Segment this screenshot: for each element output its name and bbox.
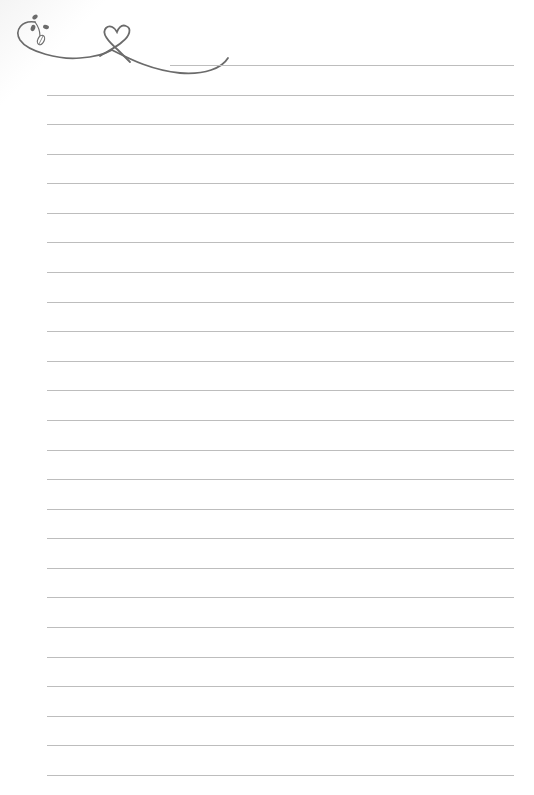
ruled-line [47,479,514,480]
ruled-line [47,124,514,125]
ruled-line [47,627,514,628]
notepaper [0,0,534,795]
ruled-line [47,597,514,598]
ruled-line [170,65,514,66]
ruled-line [47,657,514,658]
ruled-line [47,213,514,214]
ruled-line [47,538,514,539]
ruled-line [47,450,514,451]
ruled-line [47,331,514,332]
ruled-line [47,509,514,510]
ruled-line [47,745,514,746]
ruled-line [47,183,514,184]
ruled-line [47,361,514,362]
ruled-line [47,95,514,96]
ruled-line [47,390,514,391]
ruled-line [47,568,514,569]
ruled-line [47,716,514,717]
ruled-line [47,775,514,776]
ruled-lines [0,0,534,795]
ruled-line [47,154,514,155]
ruled-line [47,242,514,243]
ruled-line [47,420,514,421]
ruled-line [47,272,514,273]
ruled-line [47,686,514,687]
ruled-line [47,302,514,303]
